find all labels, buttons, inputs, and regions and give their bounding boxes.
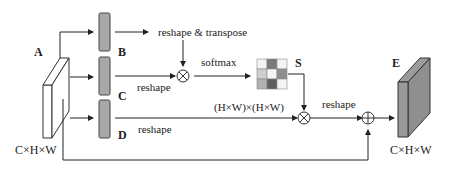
attention-dims-label: (H×W)×(H×W): [214, 101, 284, 114]
label-s: S: [295, 56, 302, 70]
reshape-d-label: reshape: [138, 123, 172, 135]
label-c: C: [118, 89, 127, 103]
arrow-s-to-multiply: [288, 74, 304, 110]
softmax-label: softmax: [201, 56, 237, 68]
label-a: A: [34, 45, 43, 59]
label-b: B: [118, 45, 126, 59]
reshape-c-label: reshape: [137, 81, 171, 93]
reshape-transpose-label: reshape & transpose: [158, 26, 247, 38]
output-feature-block: [398, 58, 430, 137]
attention-diagram: A C×H×W B C D reshape & transpose reshap…: [0, 0, 449, 169]
feature-bar-c: [99, 57, 110, 95]
feature-bar-d: [99, 100, 110, 138]
input-dims-label: C×H×W: [15, 143, 57, 157]
reshape-out-label: reshape: [322, 98, 356, 110]
multiply-node-2: [298, 112, 310, 124]
feature-bar-b: [99, 13, 110, 51]
add-node: [362, 112, 374, 124]
input-feature-block: [43, 58, 69, 138]
attention-matrix-s: [257, 59, 287, 89]
arrow-a-to-b: [60, 32, 93, 58]
multiply-node-1: [177, 70, 189, 82]
output-dims-label: C×H×W: [390, 143, 432, 157]
label-d: D: [118, 128, 127, 142]
label-e: E: [392, 56, 400, 70]
